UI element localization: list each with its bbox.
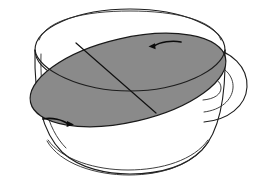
cup-diagram-svg	[0, 0, 257, 187]
figure-canvas: Tilted cup with rotating liquid surface …	[0, 0, 257, 187]
